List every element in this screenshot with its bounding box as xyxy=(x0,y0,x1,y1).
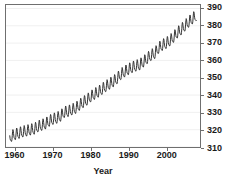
y-tick-label-330: 330 xyxy=(207,108,222,117)
x-tick-mark-1990 xyxy=(129,148,130,151)
x-tick-mark-1970 xyxy=(53,148,54,151)
plot-area xyxy=(5,4,201,148)
x-tick-mark-1960 xyxy=(15,148,16,151)
x-tick-label-1990: 1990 xyxy=(119,151,139,160)
x-tick-label-2000: 2000 xyxy=(157,151,177,160)
co2-keeling-curve-chart: 310320330340350360370380390 196019701980… xyxy=(0,0,240,180)
x-tick-label-1980: 1980 xyxy=(81,151,101,160)
y-tick-mark-350 xyxy=(201,78,204,79)
y-tick-label-350: 350 xyxy=(207,73,222,82)
y-tick-label-310: 310 xyxy=(207,144,222,153)
x-axis-title: Year xyxy=(93,166,112,176)
y-tick-mark-370 xyxy=(201,43,204,44)
y-tick-mark-340 xyxy=(201,95,204,96)
y-tick-mark-360 xyxy=(201,60,204,61)
y-tick-label-380: 380 xyxy=(207,21,222,30)
y-tick-label-320: 320 xyxy=(207,126,222,135)
y-tick-mark-380 xyxy=(201,25,204,26)
y-tick-label-370: 370 xyxy=(207,38,222,47)
y-tick-label-390: 390 xyxy=(207,3,222,12)
y-tick-mark-330 xyxy=(201,113,204,114)
x-tick-label-1970: 1970 xyxy=(43,151,63,160)
y-tick-mark-310 xyxy=(201,148,204,149)
y-tick-mark-390 xyxy=(201,8,204,9)
y-tick-label-340: 340 xyxy=(207,91,222,100)
x-tick-label-1960: 1960 xyxy=(4,151,24,160)
y-tick-label-360: 360 xyxy=(207,56,222,65)
x-tick-mark-1980 xyxy=(91,148,92,151)
x-tick-mark-2000 xyxy=(167,148,168,151)
y-tick-mark-320 xyxy=(201,130,204,131)
co2-series-line xyxy=(6,5,200,147)
